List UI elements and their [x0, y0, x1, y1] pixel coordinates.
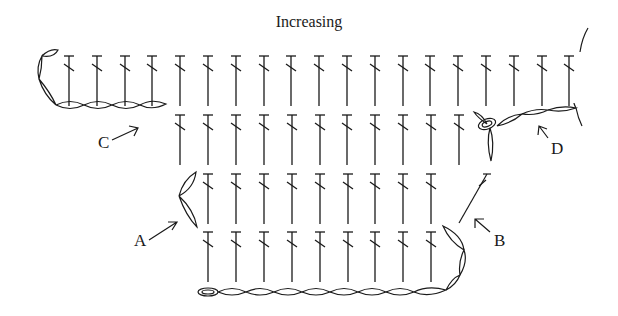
foundation-chain [198, 226, 465, 296]
double-crochet-stitch [398, 56, 408, 106]
label-b: B [494, 231, 505, 250]
arrow-b [475, 219, 490, 232]
double-crochet-stitch [286, 56, 296, 106]
double-crochet-stitch [64, 56, 74, 106]
double-crochet-stitch [398, 115, 408, 165]
double-crochet-stitch [259, 115, 269, 165]
double-crochet-stitch [203, 56, 213, 106]
double-crochet-stitch [537, 56, 547, 106]
double-crochet-stitch [453, 56, 463, 106]
double-crochet-stitch [426, 232, 436, 282]
double-crochet-stitch [287, 115, 297, 165]
double-crochet-stitch [287, 174, 297, 224]
double-crochet-stitch [426, 115, 436, 165]
double-crochet-stitch [231, 232, 241, 282]
double-crochet-stitch [315, 232, 325, 282]
left-turning-chain [38, 50, 166, 109]
double-crochet-stitch [342, 115, 352, 165]
double-crochet-stitch [287, 232, 297, 282]
double-crochet-stitch [203, 174, 213, 224]
right-turning-chain [474, 28, 588, 161]
increase-loops-a [179, 172, 197, 227]
double-crochet-stitch [564, 56, 574, 106]
double-crochet-stitch [454, 115, 464, 165]
double-crochet-stitch [370, 174, 380, 224]
double-crochet-stitch [343, 174, 353, 224]
double-crochet-stitch [370, 115, 380, 165]
label-d: D [551, 139, 563, 158]
arrow-c [112, 126, 138, 140]
double-crochet-stitch [203, 115, 213, 165]
double-crochet-stitch [370, 56, 380, 106]
double-crochet-stitch [509, 56, 519, 106]
double-crochet-stitch [314, 56, 324, 106]
crochet-diagram: A B C D [0, 0, 618, 316]
double-crochet-stitch [370, 232, 380, 282]
double-crochet-stitch [147, 56, 157, 106]
double-crochet-stitch [315, 115, 325, 165]
arrow-d [538, 126, 548, 138]
double-crochet-stitch [231, 56, 241, 106]
double-crochet-stitch [259, 174, 269, 224]
double-crochet-stitch [259, 56, 269, 106]
double-crochet-stitch [398, 232, 408, 282]
double-crochet-stitch [231, 174, 241, 224]
arrow-a [149, 222, 177, 240]
double-crochet-stitch [342, 56, 352, 106]
double-crochet-stitch [426, 174, 436, 224]
double-crochet-stitch [425, 56, 435, 106]
double-crochet-stitch [481, 56, 491, 106]
double-crochet-stitch [203, 232, 213, 282]
label-a: A [134, 231, 147, 250]
increase-stitch-b [459, 174, 491, 223]
double-crochet-stitch [175, 56, 185, 106]
double-crochet-stitch [398, 174, 408, 224]
double-crochet-stitch [120, 56, 130, 106]
double-crochet-stitch [343, 232, 353, 282]
double-crochet-stitch [315, 174, 325, 224]
label-c: C [98, 133, 109, 152]
double-crochet-stitch [259, 232, 269, 282]
double-crochet-stitch [92, 56, 102, 106]
double-crochet-stitch [231, 115, 241, 165]
double-crochet-stitch [175, 115, 185, 165]
